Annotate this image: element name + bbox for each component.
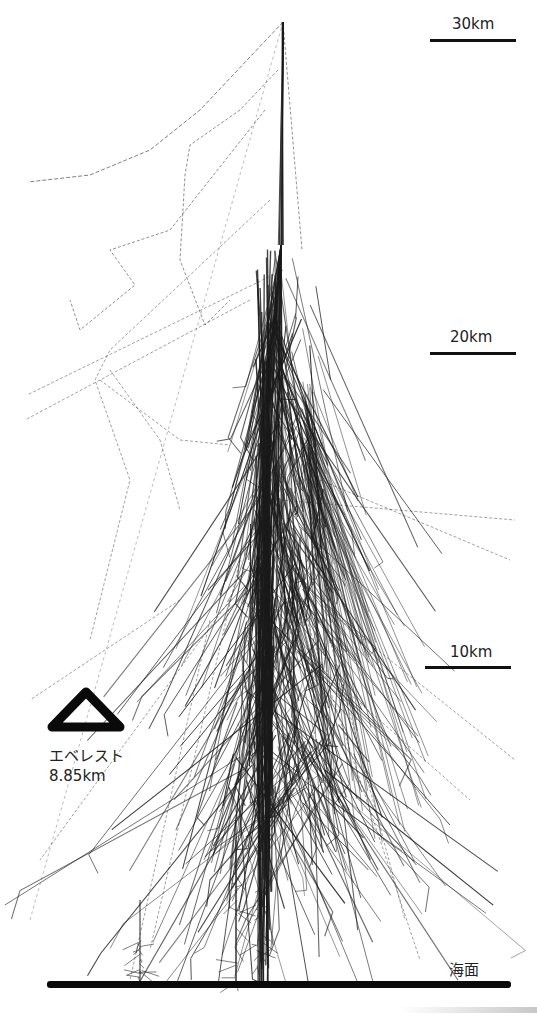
page-edge-shadow	[400, 1007, 537, 1013]
scale-label-30km: 30km	[452, 15, 494, 33]
air-shower-diagram	[0, 0, 537, 1020]
sea-level-label: 海面	[449, 958, 479, 979]
scale-bar-10km	[425, 666, 511, 669]
sea-level-line	[47, 981, 511, 988]
everest-height: 8.85km	[49, 766, 124, 786]
scale-bar-20km	[430, 352, 516, 355]
particle-tracks	[5, 22, 526, 993]
scale-label-10km: 10km	[450, 643, 492, 661]
scale-label-20km: 20km	[450, 328, 492, 346]
scale-bar-30km	[430, 39, 516, 42]
everest-label: エベレスト 8.85km	[49, 746, 124, 786]
everest-name: エベレスト	[49, 746, 124, 766]
